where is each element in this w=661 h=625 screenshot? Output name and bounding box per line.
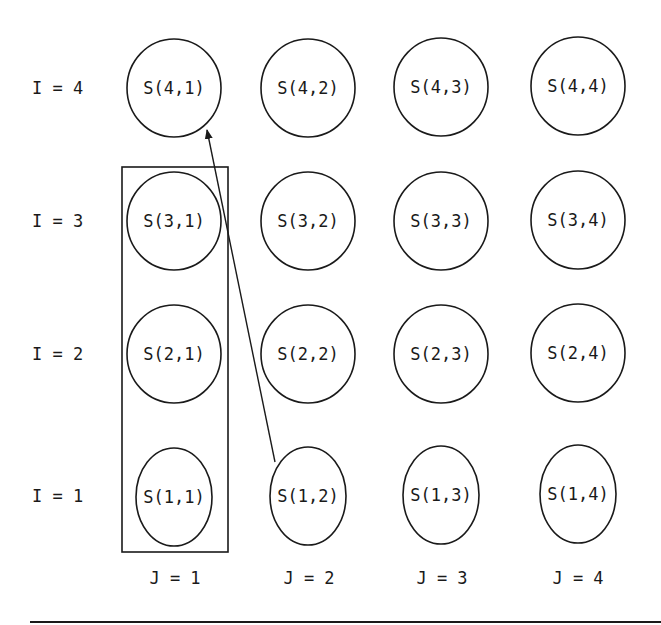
- node-s34: S(3,4): [531, 171, 625, 269]
- col-label-j3: J = 3: [416, 568, 467, 588]
- node-s42: S(4,2): [261, 39, 355, 137]
- svg-text:S(3,1): S(3,1): [143, 211, 204, 231]
- node-s31: S(3,1): [127, 172, 221, 270]
- node-s24: S(2,4): [531, 304, 625, 402]
- svg-text:S(4,1): S(4,1): [143, 78, 204, 98]
- node-s44: S(4,4): [531, 37, 625, 135]
- svg-text:S(3,3): S(3,3): [410, 211, 471, 231]
- node-s11: S(1,1): [136, 448, 212, 546]
- node-s13: S(1,3): [403, 446, 479, 544]
- svg-text:S(2,2): S(2,2): [277, 344, 338, 364]
- node-s14: S(1,4): [540, 445, 616, 543]
- node-s23: S(2,3): [394, 305, 488, 403]
- row-label-i1: I = 1: [32, 486, 83, 506]
- arrow-s12-to-s41: [207, 130, 275, 462]
- svg-text:S(2,4): S(2,4): [547, 343, 608, 363]
- col-label-j4: J = 4: [552, 568, 603, 588]
- svg-text:S(4,3): S(4,3): [410, 77, 471, 97]
- node-s33: S(3,3): [394, 172, 488, 270]
- svg-text:S(3,4): S(3,4): [547, 210, 608, 230]
- svg-text:S(2,3): S(2,3): [410, 344, 471, 364]
- node-s12: S(1,2): [270, 447, 346, 545]
- svg-text:S(1,2): S(1,2): [277, 486, 338, 506]
- node-s21: S(2,1): [127, 305, 221, 403]
- node-s32: S(3,2): [261, 172, 355, 270]
- row-label-i2: I = 2: [32, 344, 83, 364]
- svg-text:S(1,4): S(1,4): [547, 484, 608, 504]
- node-s41: S(4,1): [127, 39, 221, 137]
- row-label-i3: I = 3: [32, 211, 83, 231]
- col-label-j1: J = 1: [149, 568, 200, 588]
- node-s22: S(2,2): [261, 305, 355, 403]
- row-label-i4: I = 4: [32, 78, 83, 98]
- svg-text:S(4,4): S(4,4): [547, 76, 608, 96]
- svg-text:S(2,1): S(2,1): [143, 344, 204, 364]
- svg-text:S(4,2): S(4,2): [277, 78, 338, 98]
- grid-diagram: I = 4 I = 3 I = 2 I = 1 S(4,1) S(4,2) S(…: [0, 0, 661, 625]
- node-s43: S(4,3): [394, 38, 488, 136]
- svg-text:S(1,3): S(1,3): [410, 485, 471, 505]
- svg-text:S(1,1): S(1,1): [143, 487, 204, 507]
- svg-text:S(3,2): S(3,2): [277, 211, 338, 231]
- col-label-j2: J = 2: [283, 568, 334, 588]
